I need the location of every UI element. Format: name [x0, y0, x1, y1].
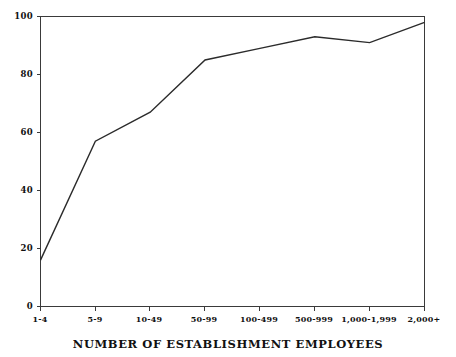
x-tick-label-4: 50-99 [191, 314, 218, 324]
y-tick-label-80: 80 [21, 69, 33, 79]
x-tick-label-8: 2,000+ [408, 314, 441, 324]
x-axis-title: NUMBER OF ESTABLISHMENT EMPLOYEES [73, 337, 383, 351]
y-tick-label-0: 0 [27, 301, 33, 311]
line-chart: 0 20 40 60 80 100 1-4 5-9 10-49 50-99 10… [0, 0, 456, 357]
y-tick-label-60: 60 [21, 127, 33, 137]
y-tick-label-40: 40 [21, 185, 33, 195]
y-axis-ticks [37, 17, 41, 307]
x-tick-label-2: 5-9 [87, 314, 102, 324]
x-axis-tick-labels: 1-4 5-9 10-49 50-99 100-499 500-999 1,00… [32, 314, 440, 324]
x-axis-ticks [41, 307, 425, 311]
x-tick-label-6: 500-999 [295, 314, 333, 324]
chart-container: 0 20 40 60 80 100 1-4 5-9 10-49 50-99 10… [0, 0, 456, 357]
x-tick-label-5: 100-499 [240, 314, 278, 324]
x-tick-label-3: 10-49 [136, 314, 163, 324]
y-tick-label-100: 100 [14, 11, 33, 21]
x-tick-label-1: 1-4 [32, 314, 47, 324]
x-tick-label-7: 1,000-1,999 [341, 314, 397, 324]
y-axis-tick-labels: 0 20 40 60 80 100 [14, 11, 33, 311]
data-series-line [41, 22, 425, 260]
y-tick-label-20: 20 [21, 243, 33, 253]
